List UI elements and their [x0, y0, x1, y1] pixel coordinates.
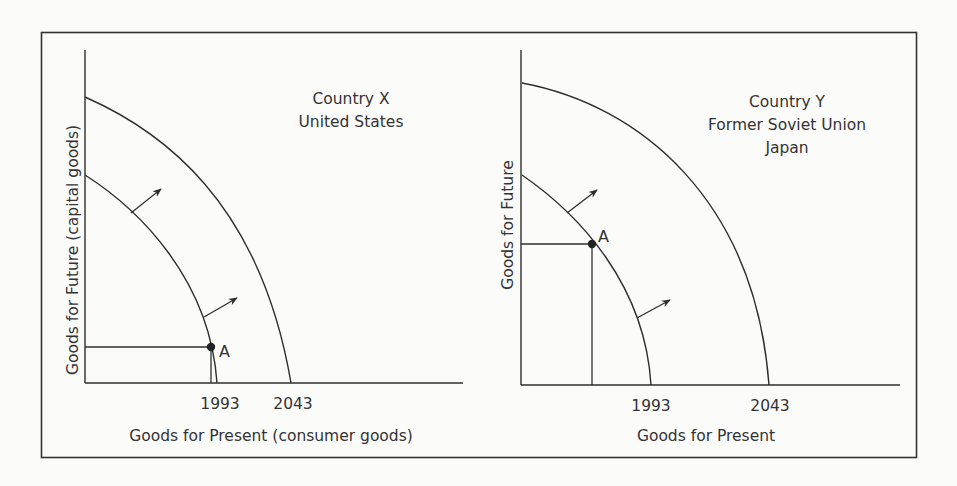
panel-title-line-1: Country Y — [749, 93, 826, 111]
shift-arrow-lower — [637, 300, 670, 318]
panel-title-line-2: Former Soviet Union — [708, 116, 866, 134]
point-a-label: A — [598, 227, 609, 246]
shift-arrow-upper — [131, 189, 161, 213]
x-axis-label: Goods for Present — [637, 427, 775, 445]
shift-arrow-lower — [204, 298, 237, 317]
y-axis-label: Goods for Future (capital goods) — [64, 125, 82, 375]
point-a-marker — [588, 240, 596, 248]
ppf-curve-1993 — [85, 175, 217, 383]
point-a-marker — [207, 343, 215, 351]
panel-title-line-1: Country X — [312, 90, 390, 108]
ppf-curve-1993 — [522, 175, 651, 385]
curve-label-1993: 1993 — [631, 397, 670, 415]
curve-label-2043: 2043 — [750, 397, 789, 415]
x-axis-label: Goods for Present (consumer goods) — [129, 427, 413, 445]
ppf-figure: A 1993 2043 Goods for Present (consumer … — [0, 0, 957, 486]
ppf-curve-2043 — [85, 97, 291, 383]
panel-right: A 1993 2043 Goods for Present Goods for … — [499, 50, 900, 445]
panel-title-line-2: United States — [299, 113, 404, 131]
panel-left: A 1993 2043 Goods for Present (consumer … — [64, 50, 463, 445]
panel-title-line-3: Japan — [764, 139, 808, 157]
point-a-label: A — [219, 342, 230, 361]
shift-arrow-upper — [567, 190, 597, 213]
curve-label-1993: 1993 — [200, 395, 239, 413]
y-axis-label: Goods for Future — [499, 160, 517, 289]
curve-label-2043: 2043 — [273, 395, 312, 413]
